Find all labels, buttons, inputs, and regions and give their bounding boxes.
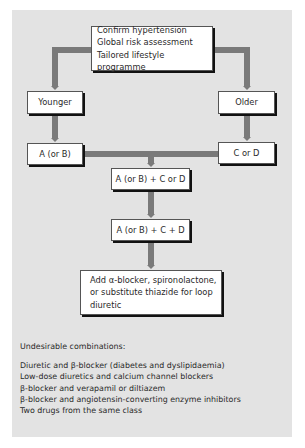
box-younger: Younger (27, 91, 83, 114)
undesirable-item: Two drugs from the same class (20, 405, 241, 416)
arrow-to-step4 (147, 265, 155, 269)
connector-top-right-vertical (244, 47, 250, 87)
undesirable-title: Undesirable combinations: (20, 341, 241, 352)
arrow-to-younger (51, 86, 59, 90)
box-a-or-b: A (or B) (27, 143, 83, 165)
step2-label: A (or B) + C or D (116, 173, 186, 186)
younger-label: Younger (38, 96, 71, 109)
step3-label: A (or B) + C + D (116, 224, 184, 237)
box-step4: Add α-blocker, spironolactone, or substi… (80, 270, 222, 315)
box-older: Older (218, 91, 275, 114)
box-initial-assessment: Confirm hypertension Global risk assessm… (91, 26, 213, 71)
step4-line-3: diuretic (90, 299, 217, 312)
box-step3: A (or B) + C + D (111, 219, 190, 241)
initial-line-1: Confirm hypertension (97, 24, 212, 37)
initial-line-3: Tailored lifestyle programme (97, 49, 212, 74)
undesirable-item: Low-dose diuretics and calcium channel b… (20, 371, 241, 382)
connector-top-left-vertical (52, 47, 58, 87)
c-or-d-label: C or D (234, 147, 260, 160)
arrow-to-a (51, 138, 59, 142)
undesirable-item: β-blocker and angiotensin-converting enz… (20, 394, 241, 405)
connector-step3-to-step4 (148, 241, 154, 266)
connector-older-to-cd (244, 114, 250, 138)
a-or-b-label: A (or B) (39, 148, 71, 161)
arrow-to-cd (243, 137, 251, 141)
undesirable-item: Diuretic and β-blocker (diabetes and dys… (20, 360, 241, 371)
initial-line-2: Global risk assessment (97, 36, 212, 49)
step4-line-1: Add α-blocker, spironolactone, (90, 274, 217, 287)
older-label: Older (235, 96, 258, 109)
step4-line-2: or substitute thiazide for loop (90, 286, 217, 299)
arrow-to-step3 (147, 214, 155, 218)
arrow-to-step2 (147, 163, 155, 167)
box-step2: A (or B) + C or D (111, 168, 190, 190)
connector-top-left-horizontal (52, 47, 92, 53)
undesirable-item: β-blocker and verapamil or diltiazem (20, 383, 241, 394)
arrow-to-older (243, 86, 251, 90)
box-c-or-d: C or D (218, 142, 275, 164)
connector-step2-to-step3 (148, 190, 154, 215)
undesirable-combinations: Undesirable combinations: Diuretic and β… (20, 341, 241, 416)
connector-younger-to-a (52, 114, 58, 139)
